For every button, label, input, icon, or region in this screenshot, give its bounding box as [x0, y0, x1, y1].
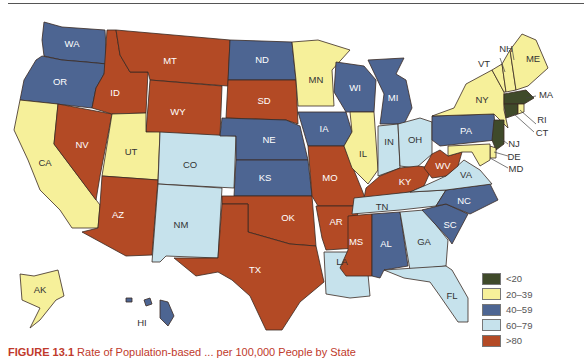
label-FL: FL [446, 290, 457, 301]
label-LA: LA [336, 256, 348, 267]
legend-item: 60–79 [482, 318, 532, 334]
legend-item: 20–39 [482, 287, 532, 303]
legend-label: >80 [506, 335, 522, 346]
legend-label: 60–79 [506, 320, 532, 331]
label-MN: MN [309, 74, 324, 85]
state-HI-small1[interactable] [126, 298, 132, 302]
label-OK: OK [281, 212, 295, 223]
label-MI: MI [388, 92, 399, 103]
label-AK: AK [34, 284, 47, 295]
label-MD: MD [509, 163, 524, 174]
label-CA: CA [38, 157, 52, 168]
label-NM: NM [174, 219, 189, 230]
label-VT: VT [478, 58, 490, 69]
label-KS: KS [259, 172, 272, 183]
label-TX: TX [249, 264, 262, 275]
label-IA: IA [320, 123, 330, 134]
legend-item: >80 [482, 333, 532, 349]
label-UT: UT [125, 146, 138, 157]
legend-label: 20–39 [506, 289, 532, 300]
label-SC: SC [443, 219, 456, 230]
label-WI: WI [349, 82, 361, 93]
figure-caption: FIGURE 13.1 Rate of Population-based ...… [8, 346, 356, 358]
label-TN: TN [376, 201, 389, 212]
label-NV: NV [75, 139, 89, 150]
label-SD: SD [257, 95, 270, 106]
label-DE: DE [507, 151, 520, 162]
label-NH: NH [499, 43, 513, 54]
legend-swatch [482, 335, 501, 347]
state-HI[interactable] [160, 300, 174, 326]
label-CT: CT [536, 127, 549, 138]
label-GA: GA [417, 236, 431, 247]
caption-label: FIGURE 13.1 [8, 346, 74, 358]
legend-item: 40–59 [482, 302, 532, 318]
label-HI: HI [137, 317, 147, 328]
label-ID: ID [110, 87, 120, 98]
legend-label: <20 [506, 273, 522, 284]
state-AK[interactable] [20, 270, 64, 328]
legend-swatch [482, 304, 501, 316]
label-MA: MA [539, 89, 554, 100]
legend: <20 20–39 40–59 60–79 >80 [482, 271, 532, 349]
state-HI-small2[interactable] [144, 298, 152, 306]
label-PA: PA [460, 125, 473, 136]
label-OR: OR [53, 76, 67, 87]
label-NJ: NJ [508, 138, 520, 149]
label-VA: VA [460, 169, 473, 180]
label-CO: CO [183, 159, 197, 170]
label-ME: ME [526, 53, 540, 64]
label-MS: MS [349, 236, 363, 247]
legend-swatch [482, 288, 501, 300]
state-IN[interactable] [378, 124, 400, 176]
label-AL: AL [380, 238, 392, 249]
label-NC: NC [457, 195, 471, 206]
label-ND: ND [255, 54, 269, 65]
state-KS[interactable] [234, 160, 312, 196]
legend-item: <20 [482, 271, 532, 287]
label-WV: WV [435, 160, 451, 171]
label-NE: NE [262, 134, 275, 145]
label-AR: AR [329, 216, 342, 227]
label-IN: IN [384, 136, 394, 147]
label-WY: WY [170, 106, 186, 117]
label-MO: MO [322, 172, 337, 183]
label-WA: WA [65, 38, 81, 49]
caption-text: Rate of Population-based ... per 100,000… [77, 346, 356, 358]
label-MT: MT [163, 55, 177, 66]
label-KY: KY [399, 176, 412, 187]
label-IL: IL [359, 148, 367, 159]
legend-swatch [482, 319, 501, 331]
label-RI: RI [537, 114, 547, 125]
legend-swatch [482, 273, 501, 285]
label-OH: OH [408, 134, 422, 145]
label-AZ: AZ [112, 209, 124, 220]
legend-label: 40–59 [506, 304, 532, 315]
state-NJ[interactable] [492, 120, 504, 150]
label-NY: NY [475, 94, 489, 105]
